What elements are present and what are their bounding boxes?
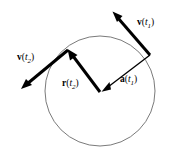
label-r-t2-paren-close: ) bbox=[76, 78, 79, 89]
label-a-t1-paren-close: ) bbox=[134, 74, 137, 85]
label-r-t2: r(t2) bbox=[62, 78, 79, 91]
label-a-t1: a(t1) bbox=[120, 74, 137, 87]
label-v-t2-paren-close: ) bbox=[31, 52, 34, 63]
label-v-t1: v(t1) bbox=[137, 17, 154, 30]
label-v-t1-paren-close: ) bbox=[151, 17, 154, 28]
vector-a-t1-arrowhead bbox=[102, 82, 112, 92]
label-v-t2: v(t2) bbox=[17, 52, 34, 65]
vector-diagram-figure: v(t1) v(t2) r(t2) a(t1) bbox=[0, 0, 175, 154]
diagram-canvas: v(t1) v(t2) r(t2) a(t1) bbox=[0, 0, 175, 154]
